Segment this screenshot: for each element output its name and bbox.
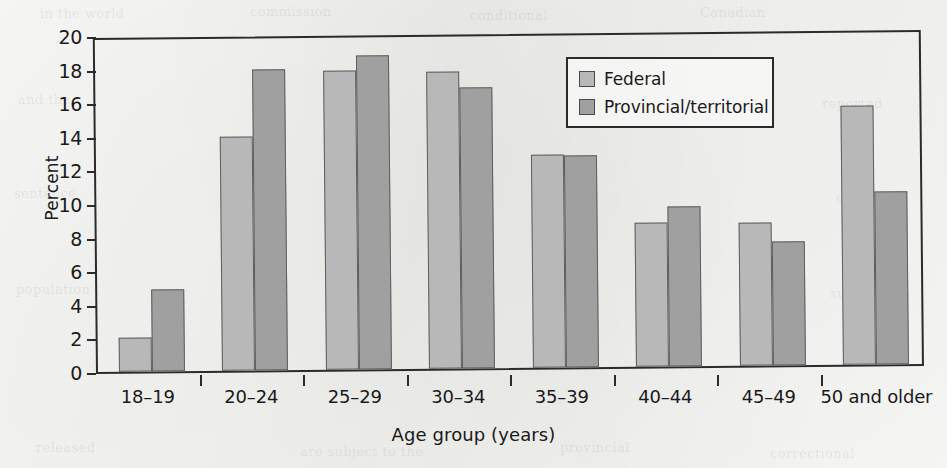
y-tick-label: 4 <box>32 295 82 317</box>
bar-provincial-territorial-4 <box>564 156 599 368</box>
legend-swatch-icon <box>579 71 595 87</box>
x-tick-label: 40–44 <box>614 386 718 407</box>
bars-container <box>95 32 919 40</box>
bar-provincial-territorial-0 <box>151 289 185 372</box>
x-tick-mark <box>200 375 202 386</box>
bar-provincial-territorial-2 <box>356 55 392 369</box>
bar-provincial-territorial-7 <box>875 191 910 364</box>
y-axis-tick: 0 <box>0 374 96 375</box>
x-tick-label: 45–49 <box>717 386 821 407</box>
y-tick-label: 12 <box>32 160 82 182</box>
legend-label: Federal <box>604 69 666 89</box>
y-axis-tick: 20 <box>0 38 96 39</box>
bar-federal-5 <box>635 222 669 367</box>
plot-frame <box>93 30 924 374</box>
x-tick-label: 25–29 <box>303 386 407 407</box>
bar-provincial-territorial-5 <box>668 207 703 367</box>
y-axis-tick: 12 <box>0 172 96 173</box>
y-axis-tick: 18 <box>0 72 96 73</box>
y-tick-label: 18 <box>32 60 82 82</box>
x-tick-mark <box>821 375 823 386</box>
bar-provincial-territorial-6 <box>772 241 806 366</box>
x-tick-label: 30–34 <box>407 386 511 407</box>
x-tick-label: 35–39 <box>510 386 614 407</box>
chart-legend: Federal Provincial/territorial <box>566 57 774 128</box>
bar-federal-3 <box>426 71 462 369</box>
x-tick-mark <box>717 375 719 386</box>
bar-federal-1 <box>220 137 255 371</box>
y-tick-label: 10 <box>32 194 82 216</box>
bar-federal-0 <box>118 338 151 372</box>
bar-provincial-territorial-3 <box>460 88 496 369</box>
legend-label: Provincial/territorial <box>604 97 769 117</box>
y-tick-label: 0 <box>32 362 82 384</box>
x-tick-label: 18–19 <box>96 386 200 407</box>
y-tick-label: 20 <box>32 26 82 48</box>
x-tick-mark <box>614 375 616 386</box>
y-tick-label: 8 <box>32 228 82 250</box>
legend-item-federal: Federal <box>579 65 772 93</box>
y-tick-label: 6 <box>32 261 82 283</box>
y-axis-tick: 6 <box>0 273 96 274</box>
y-axis-tick: 2 <box>0 340 96 341</box>
bar-chart: Percent 02468101214161820 18–1920–2425–2… <box>0 0 947 468</box>
x-tick-label: 50 and older <box>821 386 925 407</box>
y-tick-mark <box>87 373 96 375</box>
y-tick-label: 14 <box>32 127 82 149</box>
y-tick-label: 2 <box>32 328 82 350</box>
x-tick-mark <box>303 375 305 386</box>
y-axis-tick: 10 <box>0 206 96 207</box>
x-tick-mark <box>510 375 512 386</box>
y-tick-label: 16 <box>32 93 82 115</box>
y-tick-mark <box>87 339 96 341</box>
bar-federal-4 <box>531 154 566 368</box>
bar-federal-6 <box>738 223 772 366</box>
x-tick-mark <box>407 375 409 386</box>
y-axis-tick: 16 <box>0 105 96 106</box>
scanned-page: in the world commission conditional Cana… <box>0 0 947 468</box>
x-axis-label: Age group (years) <box>0 424 947 445</box>
y-axis-tick: 14 <box>0 139 96 140</box>
bar-federal-2 <box>323 70 359 369</box>
legend-swatch-icon <box>579 99 595 115</box>
legend-item-provincial-territorial: Provincial/territorial <box>579 93 772 121</box>
x-tick-label: 20–24 <box>200 386 304 407</box>
bar-provincial-territorial-1 <box>252 69 288 370</box>
bar-federal-7 <box>841 106 876 365</box>
y-axis-tick: 8 <box>0 240 96 241</box>
y-axis-tick: 4 <box>0 307 96 308</box>
